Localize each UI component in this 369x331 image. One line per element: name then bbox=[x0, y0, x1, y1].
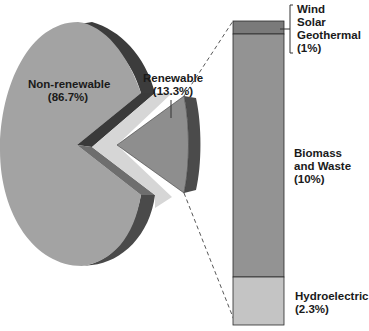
label-hydro: Hydroelectric bbox=[295, 290, 369, 303]
label-geothermal: Geothermal bbox=[297, 29, 361, 42]
breakdown-bar bbox=[233, 21, 284, 325]
label-wind: Wind bbox=[297, 3, 361, 16]
label-hydroelectric: Hydroelectric (2.3%) bbox=[295, 290, 369, 316]
label-biomass-waste: Biomass and Waste (10%) bbox=[294, 147, 351, 186]
label-hydro-value: (2.3%) bbox=[295, 303, 369, 316]
bar-segment-biomass-waste bbox=[233, 34, 284, 277]
label-nonrenewable-value: (86.7%) bbox=[28, 91, 108, 104]
bar-segment-wind-solar-geothermal bbox=[233, 21, 284, 34]
label-renewable-name: Renewable bbox=[143, 72, 203, 85]
label-biomass: Biomass bbox=[294, 147, 351, 160]
label-renewable: Renewable (13.3%) bbox=[143, 72, 203, 98]
label-biomass-value: (10%) bbox=[294, 173, 351, 186]
label-nonrenewable-name: Non-renewable bbox=[28, 78, 108, 91]
label-and-waste: and Waste bbox=[294, 160, 351, 173]
bar-segment-hydroelectric bbox=[233, 277, 284, 325]
label-solar: Solar bbox=[297, 16, 361, 29]
label-wsg-value: (1%) bbox=[297, 42, 361, 55]
label-wind-solar-geothermal: Wind Solar Geothermal (1%) bbox=[297, 3, 361, 55]
connector-bottom bbox=[184, 193, 236, 325]
label-renewable-value: (13.3%) bbox=[143, 85, 203, 98]
label-nonrenewable: Non-renewable (86.7%) bbox=[28, 78, 108, 104]
